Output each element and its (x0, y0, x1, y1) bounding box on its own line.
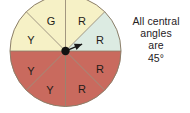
caption-line-1: All central (124, 15, 188, 27)
sector-r-4-label: R (78, 83, 86, 95)
sector-r-1-label: R (78, 15, 86, 27)
spinner-figure: RRRRYYYG All central angles are 45° (0, 0, 190, 113)
caption-line-4: 45° (124, 52, 188, 64)
spinner-pivot-dot (61, 47, 69, 55)
sector-r-2-label: R (96, 34, 104, 46)
caption-line-2: angles (124, 27, 188, 39)
sector-r-3-label: R (96, 63, 104, 75)
sector-y-1-label: Y (46, 84, 54, 96)
sector-y-2-label: Y (27, 65, 35, 77)
caption-line-3: are (124, 39, 188, 51)
sector-y-3-label: Y (27, 34, 35, 46)
caption-text-block: All central angles are 45° (124, 15, 188, 64)
sector-g-1-label: G (47, 15, 56, 27)
